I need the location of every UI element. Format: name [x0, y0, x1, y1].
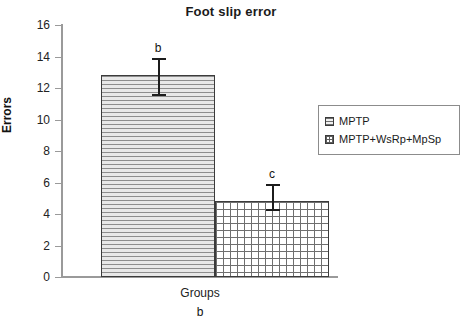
error-bar-2 [272, 184, 273, 211]
chart-title: Foot slip error [0, 4, 462, 19]
y-tick-label: 16 [0, 18, 50, 32]
legend-swatch-icon [325, 135, 334, 144]
error-bar-1 [158, 58, 159, 96]
error-bar-stem [158, 58, 160, 96]
legend-label: MPTP+WsRp+MpSp [339, 133, 441, 145]
y-tick-mark [55, 214, 62, 215]
y-tick-mark [55, 183, 62, 184]
x-axis-title: Groups [62, 286, 338, 300]
error-bar-cap-top [266, 184, 280, 186]
plot-area: bc [62, 25, 338, 277]
legend-swatch-icon [325, 117, 334, 126]
bar-2 [215, 201, 329, 277]
legend-item-2: MPTP+WsRp+MpSp [325, 131, 453, 147]
y-tick-mark [55, 246, 62, 247]
chart-legend: MPTPMPTP+WsRp+MpSp [318, 105, 460, 155]
y-tick-label: 4 [0, 207, 50, 221]
y-tick-mark [55, 277, 62, 278]
y-tick-mark [55, 25, 62, 26]
y-tick-label: 0 [0, 270, 50, 284]
chart-figure: Foot slip error 0246810121416 Errors bc … [0, 0, 462, 325]
legend-item-1: MPTP [325, 113, 453, 129]
significance-letter-2: c [262, 167, 282, 181]
y-tick-label: 14 [0, 50, 50, 64]
figure-caption: b [62, 305, 338, 319]
bar-1 [101, 75, 215, 277]
y-tick-label: 6 [0, 176, 50, 190]
significance-letter-1: b [148, 41, 168, 55]
error-bar-cap-top [152, 58, 166, 60]
y-tick-mark [55, 120, 62, 121]
y-axis-title: Errors [0, 70, 14, 160]
y-tick-mark [55, 151, 62, 152]
error-bar-cap-bottom [152, 94, 166, 96]
error-bar-stem [272, 184, 274, 211]
y-tick-mark [55, 57, 62, 58]
error-bar-cap-bottom [266, 209, 280, 211]
y-tick-mark [55, 88, 62, 89]
y-tick-label: 2 [0, 239, 50, 253]
legend-label: MPTP [339, 115, 370, 127]
